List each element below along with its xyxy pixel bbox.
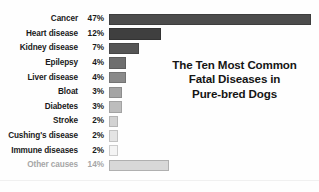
bar-chart-figure: Cancer47%Heart disease12%Kidney disease7… xyxy=(0,0,319,192)
chart-title-line-1: The Ten Most Common xyxy=(150,58,319,72)
bar-category-label: Stroke xyxy=(0,117,78,125)
bar xyxy=(109,14,311,25)
chart-baseline xyxy=(0,180,319,181)
bar-track xyxy=(109,41,319,56)
bar-track xyxy=(109,158,319,173)
bar-value-label: 47% xyxy=(78,15,109,23)
bar-value-label: 7% xyxy=(78,44,109,52)
chart-row: Cushing's disease2% xyxy=(0,129,319,144)
bar xyxy=(109,160,169,171)
bar-value-label: 2% xyxy=(78,147,109,155)
bar xyxy=(109,57,126,68)
bar-category-label: Kidney disease xyxy=(0,44,78,52)
chart-title: The Ten Most Common Fatal Diseases in Pu… xyxy=(150,58,319,101)
bar-category-label: Liver disease xyxy=(0,74,78,82)
bar xyxy=(109,43,139,54)
bar-value-label: 2% xyxy=(78,132,109,140)
bar-track xyxy=(109,129,319,144)
bar-category-label: Cushing's disease xyxy=(0,132,78,140)
bar-track xyxy=(109,143,319,158)
bar xyxy=(109,116,118,127)
chart-row: Diabetes3% xyxy=(0,100,319,115)
bar-track xyxy=(109,12,319,27)
chart-title-line-2: Fatal Diseases in xyxy=(150,72,319,86)
bar-category-label: Other causes xyxy=(0,161,78,169)
bar-category-label: Bloat xyxy=(0,88,78,96)
chart-row: Stroke2% xyxy=(0,114,319,129)
bar-value-label: 4% xyxy=(78,59,109,67)
bar-category-label: Cancer xyxy=(0,15,78,23)
bar xyxy=(109,101,122,112)
chart-title-line-3: Pure-bred Dogs xyxy=(150,87,319,101)
bar-value-label: 3% xyxy=(78,103,109,111)
bar-category-label: Epilepsy xyxy=(0,59,78,67)
bar xyxy=(109,28,161,39)
bar-value-label: 2% xyxy=(78,117,109,125)
bar-value-label: 4% xyxy=(78,74,109,82)
chart-row: Cancer47% xyxy=(0,12,319,27)
chart-row: Kidney disease7% xyxy=(0,41,319,56)
bar-category-label: Immune diseases xyxy=(0,147,78,155)
chart-row: Heart disease12% xyxy=(0,27,319,42)
bar xyxy=(109,87,122,98)
bar-value-label: 14% xyxy=(78,161,109,169)
chart-row: Immune diseases2% xyxy=(0,143,319,158)
bar-category-label: Heart disease xyxy=(0,30,78,38)
bar-track xyxy=(109,27,319,42)
bar xyxy=(109,130,118,141)
chart-row: Other causes14% xyxy=(0,158,319,173)
bar-track xyxy=(109,114,319,129)
bar xyxy=(109,72,126,83)
bar-value-label: 12% xyxy=(78,30,109,38)
bar-category-label: Diabetes xyxy=(0,103,78,111)
bar-value-label: 3% xyxy=(78,88,109,96)
bar xyxy=(109,145,118,156)
bar-track xyxy=(109,100,319,115)
